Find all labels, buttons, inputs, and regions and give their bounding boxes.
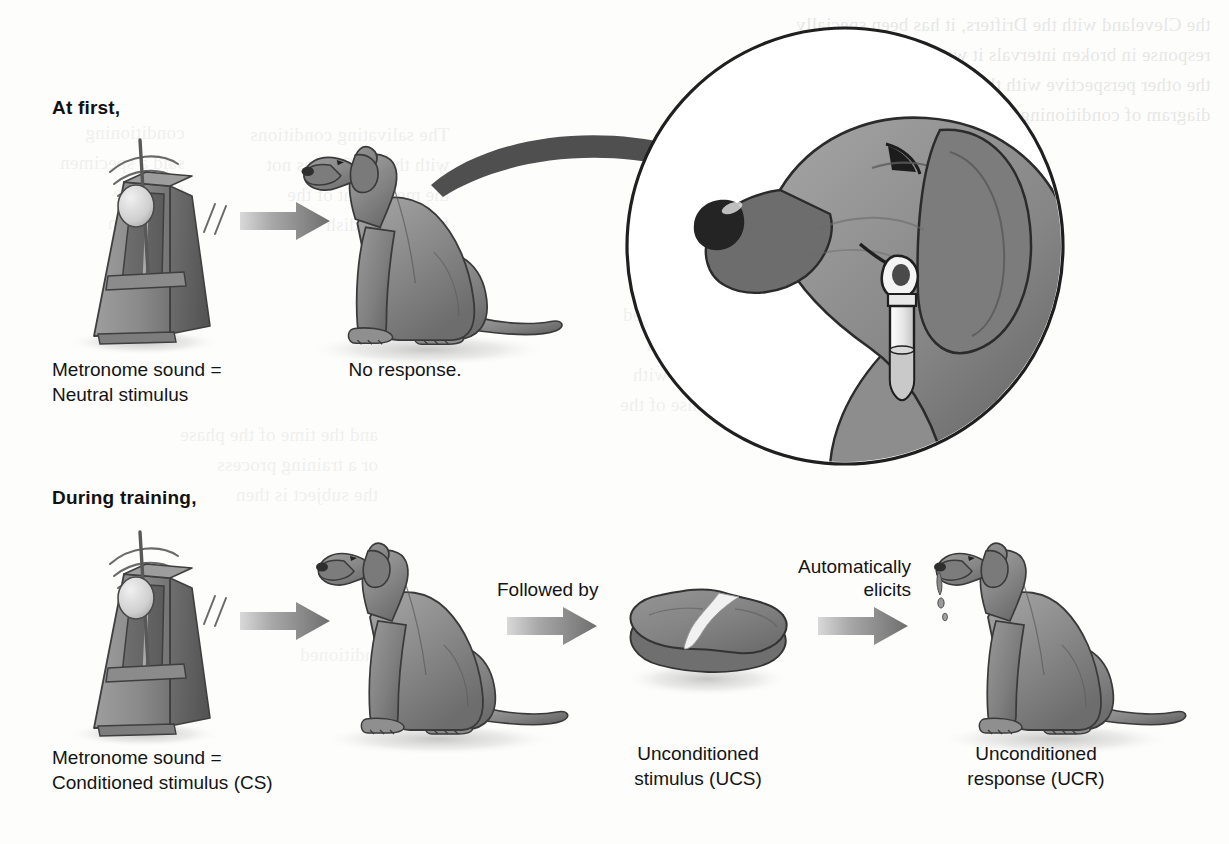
sound-tick-marks — [204, 596, 226, 626]
steak-figure-ucs — [615, 575, 805, 705]
caption-metronome-neutral: Metronome sound = Neutral stimulus — [52, 357, 222, 407]
label-followed-by: Followed by — [497, 578, 598, 601]
heading-at-first: At first, — [52, 97, 120, 119]
arrow-followed-by — [507, 605, 599, 647]
label-automatically-elicits: Automatically elicits — [789, 555, 911, 601]
caption-ucs: Unconditioned stimulus (UCS) — [634, 741, 762, 791]
caption-no-response: No response. — [348, 357, 461, 382]
pendulum-weight — [118, 577, 154, 619]
caption-metronome-cs: Metronome sound = Conditioned stimulus (… — [52, 745, 273, 795]
sound-tick-marks — [204, 204, 226, 234]
metronome-figure-1 — [52, 120, 242, 360]
arrow-automatically-elicits — [818, 605, 910, 647]
dog-figure-ucr — [918, 525, 1208, 757]
metronome-figure-2 — [52, 512, 242, 752]
pendulum-weight — [118, 185, 154, 227]
heading-during-training: During training, — [52, 487, 197, 509]
dog-head-inset-circle — [620, 18, 1080, 478]
figure-canvas: the Cleveland with the Drifters, it has … — [0, 0, 1229, 844]
bleed-through-lower-left: and the time of the phase or a training … — [180, 420, 378, 510]
caption-ucr: Unconditioned response (UCR) — [967, 741, 1104, 791]
